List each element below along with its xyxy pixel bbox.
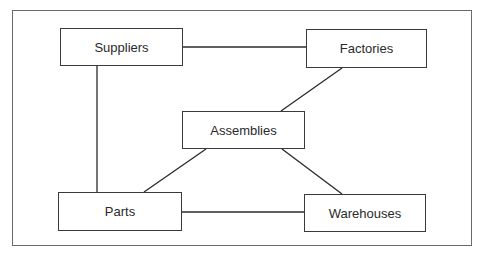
node-label: Factories: [340, 41, 393, 56]
node-label: Assemblies: [210, 123, 276, 138]
node-parts: Parts: [58, 192, 182, 231]
node-warehouses: Warehouses: [304, 194, 426, 232]
node-label: Suppliers: [94, 40, 148, 55]
node-factories: Factories: [306, 29, 427, 68]
node-assemblies: Assemblies: [182, 111, 305, 149]
edge-assemblies-parts: [144, 149, 206, 192]
edge-factories-assemblies: [281, 68, 342, 111]
node-suppliers: Suppliers: [60, 28, 183, 66]
node-label: Parts: [105, 204, 135, 219]
edge-assemblies-warehouses: [282, 149, 342, 194]
node-label: Warehouses: [329, 206, 402, 221]
